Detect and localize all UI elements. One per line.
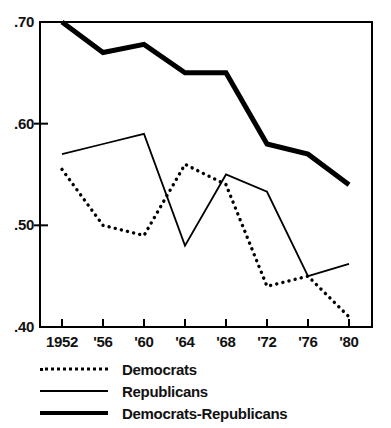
y-axis-label-1: .60 (2, 115, 34, 132)
legend-label: Democrats-Republicans (122, 405, 287, 422)
chart-figure: .70.60.50.40 1952'56'60'64'68'72'76'80 D… (0, 0, 391, 428)
legend-line-sample (40, 411, 108, 415)
chart-legend: DemocratsRepublicansDemocrats-Republican… (38, 358, 378, 424)
legend-label: Republicans (122, 383, 208, 400)
legend-swatch-icon-2 (38, 406, 110, 420)
legend-item-democrats-republicans: Democrats-Republicans (38, 402, 378, 424)
axis-frame (40, 22, 372, 327)
legend-line-sample (40, 390, 108, 392)
y-axis-label-2: .50 (2, 216, 34, 233)
series-line-democrats (62, 164, 349, 317)
legend-line-sample (40, 368, 108, 371)
x-axis-ticks (62, 319, 349, 327)
x-axis-label-7: '80 (322, 333, 376, 350)
series-line-democrats-republicans (62, 22, 349, 185)
y-axis-label-0: .70 (2, 13, 34, 30)
y-axis-label-3: .40 (2, 318, 34, 335)
data-series-layer (62, 22, 349, 317)
legend-item-democrats: Democrats (38, 358, 378, 380)
legend-label: Democrats (122, 361, 197, 378)
legend-item-republicans: Republicans (38, 380, 378, 402)
legend-swatch-icon-0 (38, 362, 110, 376)
legend-swatch-icon-1 (38, 384, 110, 398)
